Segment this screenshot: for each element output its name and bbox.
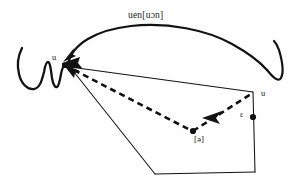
quadrilateral-left-edge <box>70 67 155 174</box>
trajectory-segment-onset <box>74 70 192 131</box>
quadrilateral-right-edge <box>253 92 255 172</box>
vowel-label-u-left: u <box>52 53 56 62</box>
epsilon-point-marker <box>250 114 256 120</box>
left-contour-squiggle <box>18 48 65 89</box>
phonetic-vowel-diagram: uen[uɔn] u u ɛ [ə] <box>0 0 300 189</box>
vowel-label-epsilon: ɛ <box>240 111 243 119</box>
vowel-label-u-right: u <box>261 89 265 98</box>
vowel-label-schwa: [ə] <box>194 135 204 144</box>
quadrilateral-bottom-edge <box>155 172 255 174</box>
articulation-arc <box>68 25 267 70</box>
transcription-label: uen[uɔn] <box>128 11 163 21</box>
right-contour-hook <box>267 41 282 80</box>
arc-arrowhead <box>62 48 82 78</box>
quadrilateral-top-edge <box>70 67 253 92</box>
